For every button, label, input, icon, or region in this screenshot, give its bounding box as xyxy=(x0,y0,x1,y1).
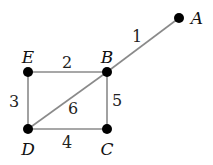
edge-weight-label: 5 xyxy=(112,91,122,110)
edge-weight-label: 1 xyxy=(132,27,142,46)
node-c xyxy=(102,124,112,134)
node-e xyxy=(23,67,33,77)
node-d xyxy=(23,124,33,134)
edge-b-a xyxy=(107,18,179,72)
node-label-a: A xyxy=(189,8,203,28)
edge-weight-label: 3 xyxy=(9,92,19,111)
weighted-graph-diagram: 123456ABEDC xyxy=(0,0,213,165)
edge-weight-label: 2 xyxy=(62,53,72,72)
node-label-c: C xyxy=(100,139,113,159)
node-b xyxy=(102,67,112,77)
labels-group: 123456ABEDC xyxy=(9,8,203,159)
node-label-e: E xyxy=(21,47,35,67)
node-label-d: D xyxy=(20,139,35,159)
node-label-b: B xyxy=(100,47,114,67)
edge-weight-label: 4 xyxy=(62,133,72,152)
node-a xyxy=(174,13,184,23)
edge-weight-label: 6 xyxy=(68,99,78,118)
